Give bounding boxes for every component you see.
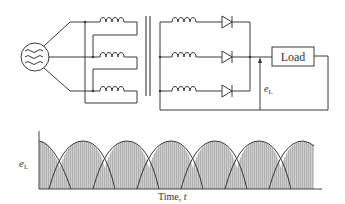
rectified-envelope xyxy=(39,141,314,189)
transformer-core-icon xyxy=(146,16,150,96)
secondary-coil-b-icon xyxy=(172,53,222,58)
secondary-coil-a-icon xyxy=(172,18,222,23)
output-waveform-chart xyxy=(39,131,322,189)
generator-leads xyxy=(44,22,93,91)
ac-generator-icon xyxy=(21,43,49,71)
load-label: Load xyxy=(281,50,306,64)
primary-coil-b-icon xyxy=(100,53,137,70)
diode-b-icon xyxy=(222,51,272,63)
rectifier-diagram: Load eL eL Time, t xyxy=(0,0,345,204)
secondary-coil-c-icon xyxy=(172,87,222,92)
y-axis-label: eL xyxy=(19,157,28,171)
load-box: Load xyxy=(272,47,328,110)
primary-coil-a-icon xyxy=(100,18,137,36)
voltage-arrow-icon xyxy=(258,57,262,110)
x-axis-label: Time, t xyxy=(158,191,187,202)
voltage-label-circuit: eL xyxy=(264,83,273,96)
output-bus xyxy=(249,22,252,91)
primary-coil-c-icon xyxy=(100,87,137,104)
diode-a-icon xyxy=(222,16,250,28)
diode-c-icon xyxy=(222,85,250,97)
